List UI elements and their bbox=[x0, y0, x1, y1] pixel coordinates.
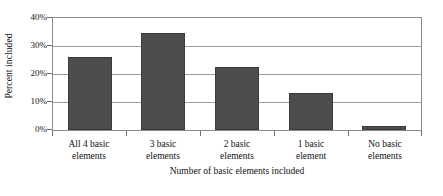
bar-slot bbox=[347, 18, 421, 130]
y-axis-tick-labels: 0%10%20%30%40% bbox=[18, 0, 50, 140]
x-axis-tick-label-line: elements bbox=[201, 150, 273, 162]
x-axis-tick-label-line: elements bbox=[127, 150, 199, 162]
y-axis-tick-label: 40% bbox=[31, 13, 48, 22]
y-axis-tick-label: 10% bbox=[31, 97, 48, 106]
x-axis-ticks bbox=[52, 131, 422, 136]
x-axis-tick bbox=[200, 131, 201, 136]
x-axis-tick-label: 3 basicelements bbox=[126, 138, 200, 168]
x-axis-tick bbox=[126, 131, 127, 136]
bar[interactable] bbox=[68, 57, 112, 130]
x-axis-tick bbox=[52, 131, 53, 136]
y-axis-tick-label: 30% bbox=[31, 41, 48, 50]
bar-slot bbox=[53, 18, 127, 130]
x-axis-tick-label-line: 1 basic bbox=[298, 139, 325, 149]
bar[interactable] bbox=[362, 126, 406, 130]
y-axis-title: Percent included bbox=[0, 0, 18, 132]
bar-slot bbox=[200, 18, 274, 130]
bar[interactable] bbox=[289, 93, 333, 130]
bar-slot bbox=[274, 18, 348, 130]
x-axis-tick-label-line: No basic bbox=[368, 139, 402, 149]
bar-slot bbox=[127, 18, 201, 130]
x-axis-tick bbox=[348, 131, 349, 136]
bar-chart: Percent included 0%10%20%30%40% All 4 ba… bbox=[0, 0, 443, 196]
bar[interactable] bbox=[215, 67, 259, 130]
x-axis-tick-label: No basicelements bbox=[348, 138, 422, 168]
y-axis-tick-label: 0% bbox=[35, 125, 47, 134]
x-axis-tick-label: 1 basicelement bbox=[274, 138, 348, 168]
x-axis-tick bbox=[421, 131, 422, 136]
x-axis-tick bbox=[274, 131, 275, 136]
y-axis-title-text: Percent included bbox=[4, 33, 14, 98]
x-axis-tick-label-line: 2 basic bbox=[224, 139, 251, 149]
x-axis-tick-label-line: elements bbox=[349, 150, 421, 162]
x-axis-tick-label-line: All 4 basic bbox=[68, 139, 109, 149]
bar[interactable] bbox=[141, 33, 185, 130]
plot-area bbox=[52, 17, 422, 131]
bars-layer bbox=[53, 18, 421, 130]
x-axis-tick-label-line: elements bbox=[53, 150, 125, 162]
x-axis-tick-label-line: element bbox=[275, 150, 347, 162]
x-axis-tick-labels: All 4 basicelements3 basicelements2 basi… bbox=[52, 138, 422, 168]
x-axis-tick-label: 2 basicelements bbox=[200, 138, 274, 168]
y-axis-tick-label: 20% bbox=[31, 69, 48, 78]
x-axis-title: Number of basic elements included bbox=[52, 166, 422, 176]
x-axis-tick-label: All 4 basicelements bbox=[52, 138, 126, 168]
x-axis-tick-label-line: 3 basic bbox=[150, 139, 177, 149]
